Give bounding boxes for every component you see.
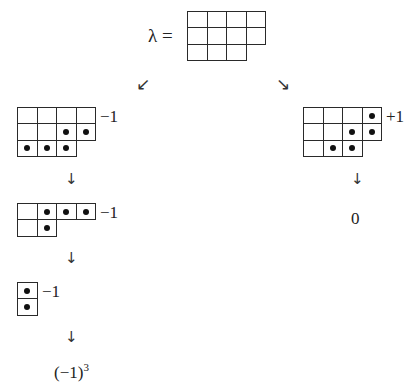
- young-cell: [323, 123, 344, 140]
- left-result-base: (−1): [54, 363, 83, 382]
- young-cell: [76, 107, 97, 124]
- young-cell: [246, 27, 267, 44]
- young-cell: [342, 107, 363, 124]
- young-cell: [303, 107, 324, 124]
- young-cell: [246, 11, 267, 28]
- dot-marker-icon: [44, 209, 50, 215]
- dot-marker-icon: [369, 129, 375, 135]
- young-cell: [207, 11, 228, 28]
- arrow-down-icon: ↓: [65, 251, 78, 266]
- dot-marker-icon: [44, 225, 50, 231]
- young-cell: [303, 140, 324, 157]
- young-cell: [37, 123, 58, 140]
- young-cell: [342, 140, 363, 157]
- young-cell: [17, 298, 38, 315]
- dot-marker-icon: [63, 129, 69, 135]
- young-cell: [362, 107, 383, 124]
- young-cell: [37, 203, 58, 220]
- young-cell: [37, 140, 58, 157]
- lambda-label: λ =: [148, 26, 173, 45]
- arrow-down-right-icon: ↘: [276, 76, 290, 93]
- dot-marker-icon: [24, 145, 30, 151]
- young-cell: [17, 282, 38, 299]
- right-result: 0: [351, 210, 360, 227]
- dot-marker-icon: [349, 129, 355, 135]
- young-cell: [76, 203, 97, 220]
- arrow-down-icon: ↓: [351, 172, 364, 187]
- young-cell: [187, 11, 208, 28]
- young-cell: [226, 44, 247, 61]
- young-cell: [37, 219, 58, 236]
- young-cell: [17, 123, 38, 140]
- young-cell: [37, 107, 58, 124]
- left-result: (−1)3: [54, 362, 89, 381]
- dot-marker-icon: [83, 209, 89, 215]
- dot-marker-icon: [349, 145, 355, 151]
- young-cell: [17, 219, 38, 236]
- young-cell: [303, 123, 324, 140]
- dot-marker-icon: [330, 145, 336, 151]
- arrow-down-icon: ↓: [65, 330, 78, 345]
- dot-marker-icon: [44, 145, 50, 151]
- dot-marker-icon: [63, 145, 69, 151]
- young-cell: [323, 107, 344, 124]
- young-cell: [17, 203, 38, 220]
- left-result-exponent: 3: [83, 361, 89, 373]
- left-step-3-sign: −1: [42, 283, 60, 300]
- young-cell: [17, 107, 38, 124]
- young-cell: [56, 203, 77, 220]
- young-cell: [187, 27, 208, 44]
- arrow-down-left-icon: ↙: [136, 76, 150, 93]
- left-step-2-sign: −1: [100, 204, 118, 221]
- young-cell: [17, 140, 38, 157]
- young-cell: [226, 11, 247, 28]
- young-cell: [226, 27, 247, 44]
- dot-marker-icon: [83, 129, 89, 135]
- dot-marker-icon: [369, 113, 375, 119]
- arrow-down-icon: ↓: [65, 172, 78, 187]
- young-cell: [342, 123, 363, 140]
- dot-marker-icon: [63, 209, 69, 215]
- dot-marker-icon: [24, 304, 30, 310]
- young-cell: [76, 123, 97, 140]
- dot-marker-icon: [24, 288, 30, 294]
- young-cell: [56, 140, 77, 157]
- young-cell: [56, 107, 77, 124]
- right-step-1-sign: +1: [386, 108, 404, 125]
- young-cell: [187, 44, 208, 61]
- left-step-1-sign: −1: [100, 108, 118, 125]
- young-cell: [207, 27, 228, 44]
- young-cell: [207, 44, 228, 61]
- young-cell: [323, 140, 344, 157]
- young-cell: [56, 123, 77, 140]
- young-cell: [362, 123, 383, 140]
